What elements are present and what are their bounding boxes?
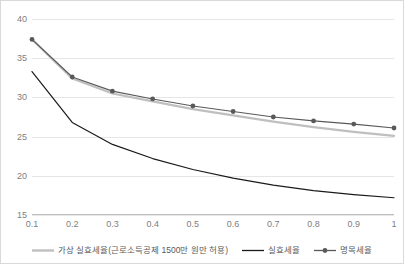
x-axis-tick-label: 1 <box>391 220 396 229</box>
data-point-marker <box>150 97 155 102</box>
legend-item[interactable]: 명목세율 <box>314 246 372 255</box>
x-axis-tick-label: 0.5 <box>187 220 200 229</box>
series-line <box>32 39 394 135</box>
y-axis-tick-label: 30 <box>17 93 27 102</box>
x-axis-tick-label: 0.8 <box>307 220 320 229</box>
data-point-marker <box>271 115 276 120</box>
data-point-marker <box>351 122 356 127</box>
series-line <box>32 72 394 198</box>
series-lines <box>32 19 394 215</box>
legend-label: 가상 실효세율(근로소득공제 1500만 원만 허용) <box>58 246 228 255</box>
data-point-marker <box>30 37 35 42</box>
legend-label: 명목세율 <box>340 246 372 255</box>
y-axis-tick-label: 35 <box>17 54 27 63</box>
data-point-marker <box>190 104 195 109</box>
data-point-marker <box>392 126 397 131</box>
legend-swatch <box>242 246 264 255</box>
chart-legend: 가상 실효세율(근로소득공제 1500만 원만 허용)실효세율명목세율 <box>1 246 403 255</box>
x-axis-tick-label: 0.9 <box>348 220 361 229</box>
legend-item[interactable]: 가상 실효세율(근로소득공제 1500만 원만 허용) <box>32 246 228 255</box>
data-point-marker <box>70 75 75 80</box>
y-axis-tick-label: 20 <box>17 171 27 180</box>
chart-container: 152025303540 0.10.20.30.40.50.60.70.80.9… <box>0 0 404 264</box>
legend-item[interactable]: 실효세율 <box>242 246 300 255</box>
data-point-marker <box>311 119 316 124</box>
x-axis-tick-label: 0.3 <box>106 220 119 229</box>
x-axis-tick-label: 0.6 <box>227 220 240 229</box>
y-axis-tick-label: 40 <box>17 15 27 24</box>
legend-swatch <box>32 246 54 255</box>
plot-area: 152025303540 0.10.20.30.40.50.60.70.80.9… <box>32 19 394 215</box>
data-point-marker <box>231 109 236 114</box>
legend-label: 실효세율 <box>268 246 300 255</box>
x-axis-tick-label: 0.2 <box>66 220 79 229</box>
data-point-marker <box>110 89 115 94</box>
legend-swatch <box>314 246 336 255</box>
y-axis-tick-label: 25 <box>17 132 27 141</box>
x-axis-tick-label: 0.1 <box>26 220 39 229</box>
gridline <box>32 215 394 216</box>
x-axis-tick-label: 0.4 <box>146 220 159 229</box>
x-axis-tick-label: 0.7 <box>267 220 280 229</box>
